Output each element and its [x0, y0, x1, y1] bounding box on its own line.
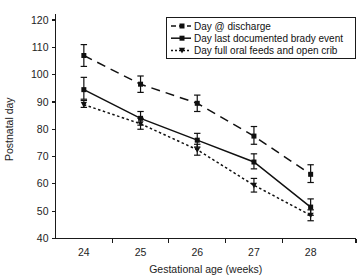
data-point-marker[interactable]	[81, 87, 86, 92]
line-chart: 4050607080901001101202425262728Gestation…	[0, 0, 363, 276]
legend-label: Day full oral feeds and open crib	[194, 45, 338, 56]
data-point-marker[interactable]	[81, 53, 86, 58]
data-point-marker[interactable]	[308, 172, 313, 177]
y-tick-label: 90	[37, 96, 49, 108]
y-tick-label: 100	[31, 68, 49, 80]
data-point-marker[interactable]	[195, 101, 200, 106]
y-tick-label: 70	[37, 150, 49, 162]
y-tick-label: 50	[37, 205, 49, 217]
legend-item-2[interactable]: Day last documented brady event	[171, 33, 343, 44]
y-axis-title: Postnatal day	[3, 97, 15, 161]
data-point-marker[interactable]	[308, 205, 313, 210]
y-tick-label: 80	[37, 123, 49, 135]
x-tick-label: 27	[248, 246, 260, 258]
x-tick-label: 25	[135, 246, 147, 258]
data-point-marker[interactable]	[251, 183, 257, 189]
x-tick-label: 24	[78, 246, 90, 258]
legend-marker-sample	[180, 24, 185, 29]
y-tick-label: 60	[37, 177, 49, 189]
x-axis-ticks: 2425262728	[78, 239, 356, 258]
y-tick-label: 40	[37, 232, 49, 244]
data-point-marker[interactable]	[251, 134, 256, 139]
series-line	[84, 105, 311, 216]
data-point-marker[interactable]	[195, 138, 200, 143]
data-point-marker[interactable]	[251, 160, 256, 165]
y-tick-label: 120	[31, 14, 49, 26]
legend: Day @ dischargeDay last documented brady…	[166, 17, 355, 58]
x-tick-label: 28	[305, 246, 317, 258]
figure-container: 4050607080901001101202425262728Gestation…	[0, 0, 363, 276]
y-axis-ticks: 405060708090100110120	[31, 14, 56, 245]
y-tick-label: 110	[32, 41, 49, 53]
legend-label: Day @ discharge	[194, 21, 271, 32]
x-axis-title: Gestational age (weeks)	[149, 263, 262, 275]
legend-label: Day last documented brady event	[194, 33, 343, 44]
series-1	[81, 45, 314, 183]
series-line	[84, 56, 311, 175]
x-tick-label: 26	[191, 246, 203, 258]
legend-item-3[interactable]: Day full oral feeds and open crib	[171, 45, 338, 56]
series-3	[81, 101, 314, 221]
data-point-marker[interactable]	[138, 82, 143, 87]
legend-marker-sample	[180, 36, 185, 41]
